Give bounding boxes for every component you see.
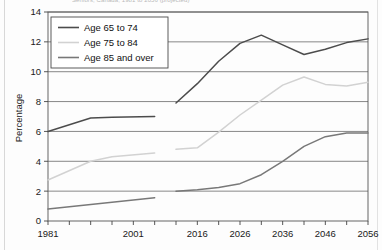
x-tick-label: 2046	[315, 228, 336, 239]
y-tick-label: 8	[36, 96, 41, 107]
chart-legend: Age 65 to 74Age 75 to 84Age 85 and over	[51, 17, 168, 68]
y-tick-label: 10	[30, 66, 41, 77]
series-line	[48, 198, 155, 209]
x-tick-label: 2036	[272, 228, 293, 239]
x-tick-label: 1981	[37, 228, 58, 239]
legend-label: Age 65 to 74	[84, 22, 138, 33]
y-tick-label: 2	[36, 186, 41, 197]
line-chart: 02468101214 1981200120162026203620462056…	[0, 0, 382, 250]
series-line	[176, 77, 368, 149]
x-tick-label: 2016	[187, 228, 208, 239]
legend-label: Age 75 to 84	[84, 37, 138, 48]
x-axis-ticks: 1981200120162026203620462056	[37, 221, 378, 239]
y-tick-label: 12	[30, 36, 41, 47]
legend-label: Age 85 and over	[84, 52, 154, 63]
y-tick-label: 4	[36, 156, 41, 167]
x-tick-label: 2001	[123, 228, 144, 239]
series-line	[48, 153, 155, 180]
y-tick-label: 14	[30, 6, 41, 17]
series-line	[48, 117, 155, 132]
chart-svg: 02468101214 1981200120162026203620462056…	[0, 0, 382, 250]
y-axis-label: Percentage	[13, 94, 24, 143]
y-tick-label: 6	[36, 126, 41, 137]
y-axis-ticks: 02468101214	[30, 6, 48, 226]
y-tick-label: 0	[36, 215, 41, 226]
x-tick-label: 2026	[229, 228, 250, 239]
y-axis-title: Percentage	[13, 94, 24, 143]
x-tick-label: 2056	[357, 228, 378, 239]
page-canvas: Seniors, Canada, 1981 to 2056 (projected…	[0, 0, 382, 250]
